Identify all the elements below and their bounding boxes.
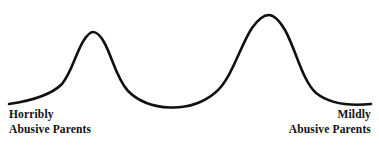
bimodal-curve-figure: Horribly Abusive Parents Mildly Abusive … (0, 0, 379, 149)
right-axis-label: Mildly Abusive Parents (289, 107, 371, 137)
left-axis-label-line2: Abusive Parents (9, 122, 91, 137)
left-axis-label-line1: Horribly (9, 107, 91, 122)
right-axis-label-line1: Mildly (289, 107, 371, 122)
right-axis-label-line2: Abusive Parents (289, 122, 371, 137)
left-axis-label: Horribly Abusive Parents (9, 107, 91, 137)
